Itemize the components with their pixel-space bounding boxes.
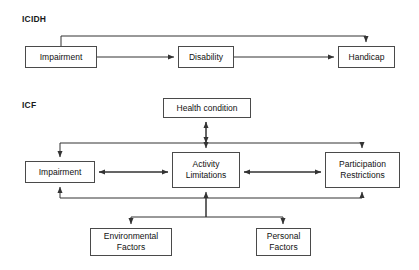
node-label: Impairment <box>37 167 84 178</box>
node-icf-personal-factors: Personal Factors <box>256 228 311 256</box>
node-label: Activity Limitations <box>173 159 239 180</box>
node-icf-activity-limitations: Activity Limitations <box>172 152 240 188</box>
node-label: Participation Restrictions <box>326 159 399 180</box>
node-label: Disability <box>187 52 225 63</box>
section-label-icidh: ICIDH <box>22 14 46 24</box>
node-icf-health-condition: Health condition <box>163 98 251 118</box>
node-icidh-disability: Disability <box>178 46 234 68</box>
node-icidh-impairment: Impairment <box>25 46 97 68</box>
node-label: Impairment <box>38 52 85 63</box>
section-label-icf: ICF <box>22 100 36 110</box>
connector-layer <box>0 0 419 270</box>
edge-impairment-to-handicap-bypass <box>61 36 366 46</box>
node-icidh-handicap: Handicap <box>338 46 395 68</box>
node-icf-impairment: Impairment <box>25 161 95 183</box>
node-label: Personal Factors <box>257 231 310 252</box>
node-label: Environmental Factors <box>91 231 171 252</box>
node-label: Handicap <box>347 52 387 63</box>
node-label: Health condition <box>175 103 240 114</box>
icidh-icf-comparison-diagram: ICIDH ICF Impairment Disability Handicap… <box>0 0 419 270</box>
node-icf-participation-restrictions: Participation Restrictions <box>325 152 400 188</box>
node-icf-environmental-factors: Environmental Factors <box>90 228 172 256</box>
